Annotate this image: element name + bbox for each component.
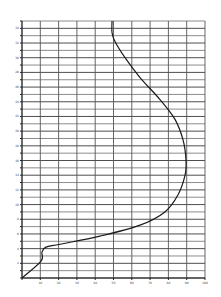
y-tick-label: 4 xyxy=(17,247,19,251)
y-tick-label: 24 xyxy=(15,100,19,104)
x-tick-label: 70 xyxy=(148,281,152,285)
x-tick-label: 90 xyxy=(185,281,189,285)
y-tick-label: 14 xyxy=(15,173,19,177)
y-tick-label: 20 xyxy=(15,129,19,133)
x-tick-label: 60 xyxy=(130,281,134,285)
y-tick-label: 8 xyxy=(17,217,19,221)
x-tick-label: 50 xyxy=(112,281,116,285)
x-tick-label: 40 xyxy=(93,281,97,285)
x-tick-label: 80 xyxy=(166,281,170,285)
data-series xyxy=(22,21,186,278)
x-tick-label: 20 xyxy=(57,281,61,285)
y-tick-label: 30 xyxy=(15,56,19,60)
y-tick-label: 28 xyxy=(15,70,19,74)
y-tick-label: 22 xyxy=(15,114,19,118)
y-tick-label: 18 xyxy=(15,144,19,148)
y-tick-label: 16 xyxy=(15,159,19,163)
x-tick-label: 10 xyxy=(38,281,42,285)
line-chart: 1020304050607080901002468101214161820222… xyxy=(0,0,221,297)
y-tick-label: 10 xyxy=(15,203,19,207)
y-tick-label: 2 xyxy=(17,261,19,265)
grid xyxy=(22,21,205,278)
x-tick-label: 30 xyxy=(75,281,79,285)
y-tick-label: 12 xyxy=(15,188,19,192)
y-tick-label: 32 xyxy=(15,41,19,45)
chart-container: 1020304050607080901002468101214161820222… xyxy=(0,0,221,297)
x-tick-label: 100 xyxy=(202,281,208,285)
y-tick-label: 34 xyxy=(15,26,19,30)
y-tick-label: 6 xyxy=(17,232,19,236)
y-tick-label: 26 xyxy=(15,85,19,89)
series-line xyxy=(22,21,186,278)
